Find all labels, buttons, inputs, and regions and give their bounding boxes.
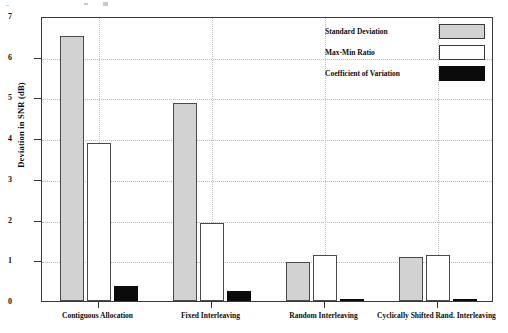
x-tick-mark (98, 302, 99, 308)
legend-item: Standard Deviation (325, 24, 475, 45)
legend-item: Coefficient of Variation (325, 66, 475, 87)
y-tick-mark (34, 139, 41, 140)
scan-artifact (103, 2, 108, 6)
legend-label: Coefficient of Variation (325, 69, 400, 78)
y-tick-mark (34, 98, 41, 99)
gridline-y-4 (42, 140, 492, 141)
legend-swatch (439, 24, 485, 39)
y-tick-mark (34, 180, 41, 181)
bar (87, 143, 111, 301)
y-tick-label: 2 (0, 217, 12, 225)
bar (313, 255, 337, 301)
bar (114, 286, 138, 301)
bar (286, 262, 310, 301)
gridline-y-5 (42, 99, 492, 100)
y-tick-mark (34, 58, 41, 59)
y-tick-label: 5 (0, 94, 12, 102)
legend-item: Max-Min Ratio (325, 45, 475, 66)
legend-swatch (439, 45, 485, 60)
chart-legend: Standard DeviationMax-Min RatioCoefficie… (325, 24, 475, 87)
bar (453, 299, 477, 301)
bar (399, 257, 423, 301)
x-tick-mark (211, 302, 212, 308)
bar-chart: Deviation in SNR (dB) 01234567 Contiguou… (0, 0, 508, 333)
scan-artifact (84, 3, 88, 5)
bar (173, 103, 197, 301)
x-axis-category-label: Cyclically Shifted Rand. Interleaving (327, 311, 508, 320)
legend-swatch (439, 66, 485, 81)
y-tick-label: 7 (0, 13, 12, 21)
y-tick-label: 3 (0, 176, 12, 184)
legend-label: Standard Deviation (325, 27, 388, 36)
y-tick-label: 6 (0, 54, 12, 62)
y-tick-mark (34, 221, 41, 222)
bar (340, 299, 364, 301)
y-tick-mark (34, 261, 41, 262)
scan-artifact (6, 5, 9, 6)
legend-label: Max-Min Ratio (325, 48, 375, 57)
bar (426, 255, 450, 301)
bar (200, 223, 224, 301)
y-tick-label: 0 (0, 298, 12, 306)
bar (227, 291, 251, 301)
y-tick-label: 1 (0, 257, 12, 265)
bar (60, 36, 84, 301)
y-axis-title: Deviation in SNR (dB) (16, 50, 26, 200)
y-tick-label: 4 (0, 135, 12, 143)
x-tick-mark (437, 302, 438, 308)
x-tick-mark (324, 302, 325, 308)
